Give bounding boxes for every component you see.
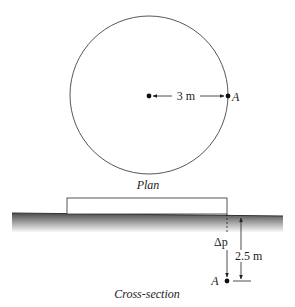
point-a-plan (226, 94, 231, 99)
point-a-section (225, 279, 230, 284)
point-a-plan-label: A (231, 90, 240, 104)
radius-label: 3 m (177, 89, 196, 103)
point-a-section-label: A (210, 274, 219, 288)
cross-section-view: Δp 2.5 m A Cross-section (12, 198, 283, 301)
footing-rectangle (67, 198, 227, 214)
cross-section-caption: Cross-section (114, 287, 180, 301)
delta-p-label: Δp (214, 235, 228, 249)
depth-label: 2.5 m (235, 249, 263, 263)
center-point (147, 94, 152, 99)
plan-view: 3 m A Plan (70, 16, 240, 192)
diagram-canvas: 3 m A Plan Δp 2.5 m A Cross-section (0, 0, 295, 307)
plan-caption: Plan (136, 178, 160, 192)
